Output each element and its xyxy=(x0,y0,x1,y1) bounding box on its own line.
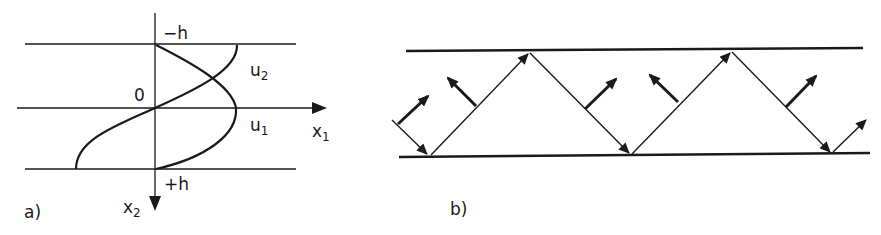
x1-label: x1 xyxy=(312,121,330,144)
u1-label-main: u xyxy=(250,115,261,135)
panel-a: −h 0 u2 u1 x1 +h x2 a) xyxy=(17,13,330,222)
u2-label-sub: 2 xyxy=(261,69,269,83)
ray-segment-1 xyxy=(431,54,528,155)
x1-label-main: x xyxy=(312,121,322,141)
ray-outgoing xyxy=(833,120,866,152)
u2-label: u2 xyxy=(250,60,268,83)
origin-label: 0 xyxy=(134,85,145,105)
x1-axis-arrow-icon xyxy=(312,102,327,114)
bottom-wall-line xyxy=(399,153,870,157)
top-wall-line xyxy=(406,48,863,51)
x2-axis-arrow-icon xyxy=(149,196,161,211)
ray-segment-3 xyxy=(632,53,730,154)
panel-b-label: b) xyxy=(450,199,467,219)
top-boundary-label: −h xyxy=(163,23,188,43)
bottom-boundary-label: +h xyxy=(164,174,189,194)
u2-curve xyxy=(156,45,236,169)
panel-a-label: a) xyxy=(24,202,41,222)
displacement-arrow-3 xyxy=(585,79,616,109)
x2-label: x2 xyxy=(123,197,141,220)
u1-label-sub: 1 xyxy=(261,124,269,138)
ray-segment-2 xyxy=(530,53,629,153)
displacement-arrow-2 xyxy=(448,78,476,106)
displacement-arrow-5 xyxy=(786,76,816,107)
displacement-arrow-1 xyxy=(398,96,428,124)
u1-label: u1 xyxy=(250,115,268,138)
ray-incoming xyxy=(392,120,427,154)
u1-curve xyxy=(76,45,237,169)
ray-segment-4 xyxy=(732,52,830,152)
panel-b: b) xyxy=(392,48,870,219)
u2-label-main: u xyxy=(250,60,261,80)
displacement-arrow-4 xyxy=(650,75,678,102)
diagram-canvas: −h 0 u2 u1 x1 +h x2 a) b) xyxy=(0,0,881,235)
x1-label-sub: 1 xyxy=(322,130,330,144)
x2-label-main: x xyxy=(123,197,133,217)
x2-label-sub: 2 xyxy=(133,206,141,220)
